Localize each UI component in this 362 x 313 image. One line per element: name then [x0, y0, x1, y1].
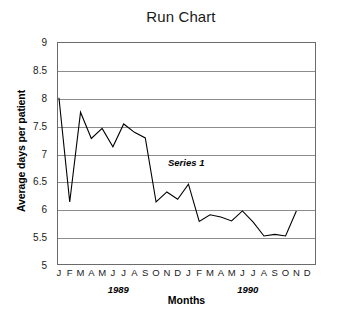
y-axis-tick-label: 9 — [1, 37, 47, 48]
y-axis-tick-label: 7 — [1, 148, 47, 159]
y-axis-tick-label: 5.5 — [1, 232, 47, 243]
y-axis-tick-label: 6 — [1, 204, 47, 215]
y-axis-tick-label: 8.5 — [1, 64, 47, 75]
year-group-label: 1990 — [218, 284, 278, 295]
x-axis-tick-labels: JFMAMJJASONDJFMAMJJASOND — [57, 267, 316, 283]
series-annotation-label: Series 1 — [168, 157, 204, 168]
x-axis-tick-label: D — [300, 267, 314, 278]
y-axis-tick-label: 7.5 — [1, 120, 47, 131]
y-axis-tick-label: 8 — [1, 92, 47, 103]
y-axis-tick-label: 6.5 — [1, 176, 47, 187]
data-series-line — [57, 42, 316, 265]
y-axis-tick-labels: 55.566.577.588.59 — [0, 42, 52, 265]
x-axis-title: Months — [57, 294, 316, 306]
year-group-label: 1989 — [88, 284, 148, 295]
chart-title: Run Chart — [0, 8, 362, 25]
run-chart: Run Chart Average days per patient 55.56… — [0, 0, 362, 313]
y-axis-tick-label: 5 — [1, 260, 47, 271]
